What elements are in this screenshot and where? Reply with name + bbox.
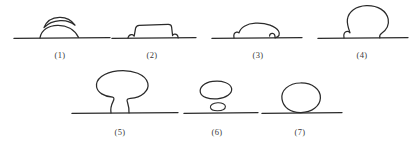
panel-2-baseline xyxy=(112,38,196,39)
figure-label-5: (5) xyxy=(114,127,125,137)
panel-3-drawing xyxy=(212,23,302,38)
panel-7-ellipse-outline xyxy=(282,83,321,113)
panel-4-drawing xyxy=(318,6,408,39)
figure-label-7: (7) xyxy=(294,127,305,137)
figure-label-2: (2) xyxy=(146,50,157,60)
panel-1-drawing xyxy=(14,17,110,38)
panel-4-drop-outline xyxy=(344,6,389,38)
panel-3-drop-outline xyxy=(234,23,280,38)
panel-7-drawing xyxy=(262,83,342,113)
figure-drawing xyxy=(0,0,415,151)
panel-5-baseline xyxy=(72,113,178,114)
panel-1-crescent-arc xyxy=(44,17,75,27)
panel-2-deposit-outline xyxy=(128,24,178,38)
panel-5-drawing xyxy=(72,71,178,114)
panel-6-drawing xyxy=(184,81,258,113)
figure-container: (1) (2) (3) (4) (5) (6) (7) xyxy=(0,0,415,151)
figure-label-1: (1) xyxy=(54,50,65,60)
panel-6-baseline xyxy=(184,113,258,114)
figure-label-4: (4) xyxy=(356,50,367,60)
panel-2-drawing xyxy=(112,24,196,38)
panel-1-dome-outline xyxy=(40,25,79,37)
figure-label-3: (3) xyxy=(252,50,263,60)
panel-4-baseline xyxy=(318,38,408,39)
panel-1-baseline xyxy=(14,38,110,39)
panel-3-baseline xyxy=(212,38,302,39)
figure-label-6: (6) xyxy=(211,127,222,137)
panel-6-small-ellipse xyxy=(210,103,225,111)
panel-5-mushroom-outline xyxy=(96,71,148,113)
panel-6-detached-blob xyxy=(200,81,232,99)
